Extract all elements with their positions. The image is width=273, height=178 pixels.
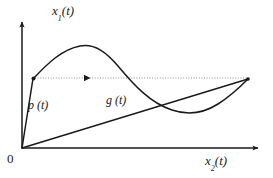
trajectory-plot: [0, 0, 273, 178]
curve-label-g-arg: (t): [115, 93, 126, 107]
origin-label: 0: [7, 152, 14, 165]
y-axis-label-subscript: 1: [58, 14, 62, 23]
convergence-endpoint-dot: [246, 77, 250, 81]
curve-label-p-base: p: [28, 98, 34, 112]
curve-p: [22, 79, 33, 149]
figure-container: x1(t) x2(t) 0 p (t) g (t): [0, 0, 273, 178]
curve-label-p-arg: (t): [37, 98, 48, 112]
x-axis-label-arg: (t): [215, 153, 227, 168]
curve-label-p: p (t): [28, 99, 48, 111]
x-axis-label-base: x: [205, 153, 211, 168]
dotted-guide-arrow-icon: [84, 75, 91, 81]
curve-g: [22, 79, 248, 148]
y-axis-label: x1(t): [52, 4, 74, 21]
x-axis-label: x2(t): [205, 154, 227, 171]
curve-label-g: g (t): [106, 94, 126, 106]
x-axis-label-subscript: 2: [211, 164, 215, 173]
y-axis-label-arg: (t): [62, 3, 74, 18]
y-axis-label-base: x: [52, 3, 58, 18]
curve-label-g-base: g: [106, 93, 112, 107]
trajectory-curve: [34, 46, 249, 114]
